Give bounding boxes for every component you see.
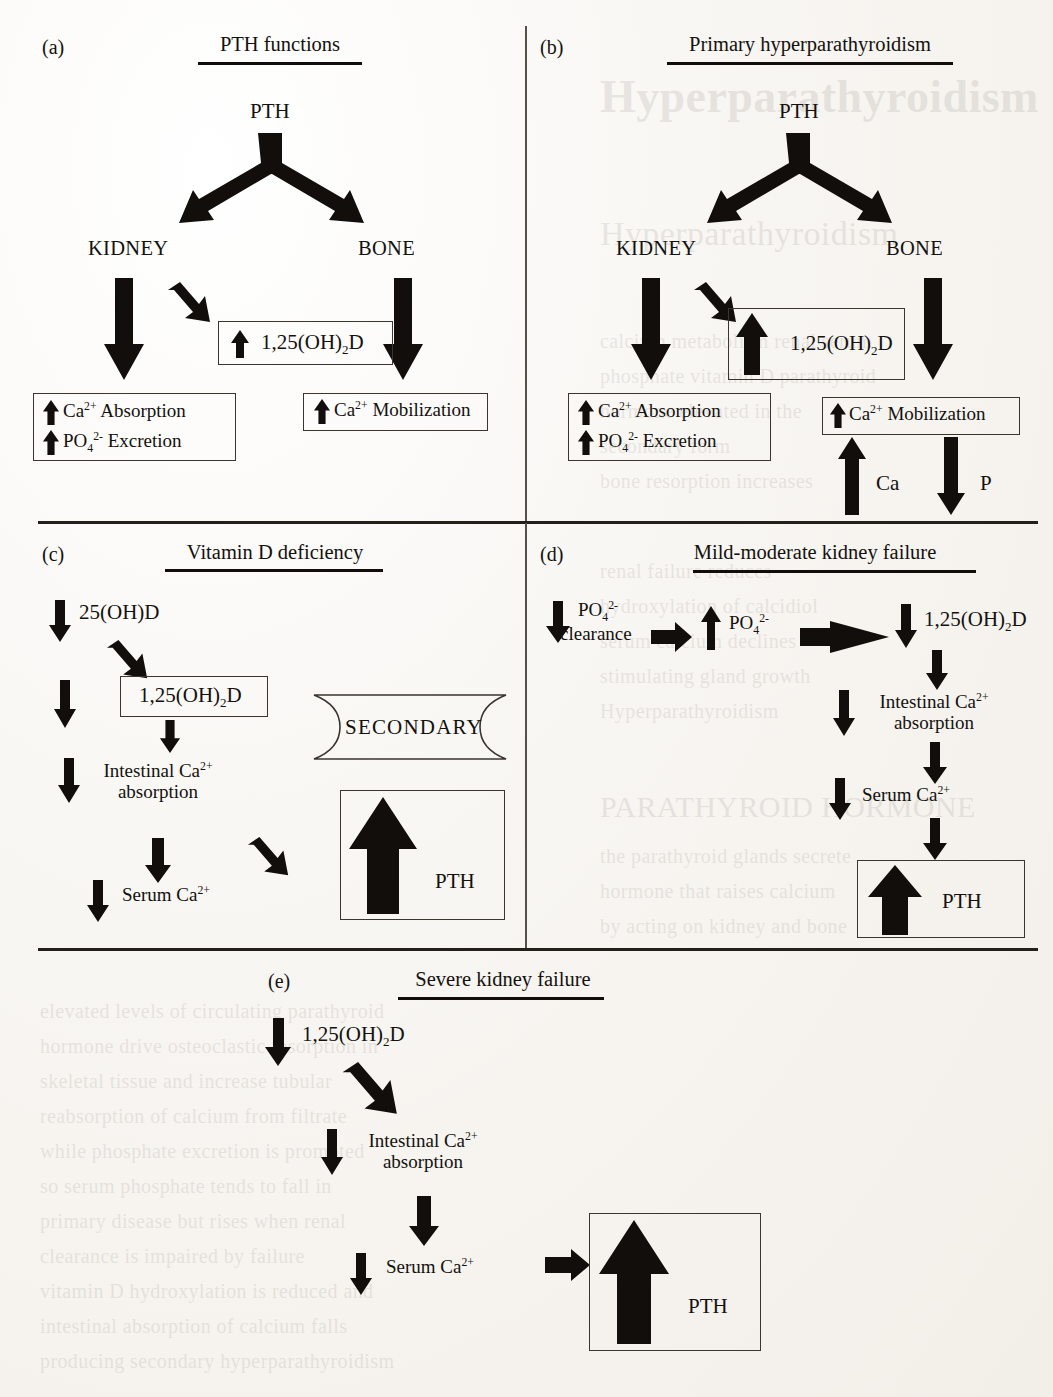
panel-d-tag: (d) [540, 543, 563, 565]
panel-c-step3-line2: absorption [118, 781, 198, 802]
panel-a-title: PTH functions [190, 33, 370, 56]
panel-e-pth-up-arrow [598, 1220, 670, 1344]
panel-a-kidney-down-arrow [103, 278, 145, 380]
panel-d-step1-line2: clearance [560, 622, 632, 646]
panel-b-node-kidney: KIDNEY [616, 237, 696, 260]
panel-d-step1-label: PO42- clearance [578, 598, 632, 646]
panel-b-p-release-down-arrow [936, 437, 966, 515]
panel-b-ca-release-label: Ca [876, 472, 899, 496]
panel-c-step3-label: Intestinal Ca2+ absorption [88, 760, 228, 803]
panel-c-step3-line1: Intestinal Ca2+ [103, 760, 212, 781]
panel-c-step3-down-arrow [57, 758, 81, 803]
panel-b-ca-absorption-label: Ca2+ Absorption [598, 400, 721, 421]
panel-a-ca-absorption-label: Ca2+ Absorption [63, 400, 186, 421]
panel-b-p-release-label: P [980, 472, 992, 496]
panel-c-vitd-to-intestinal-arrow [158, 720, 182, 753]
panel-c-step3-to-step4-arrow [144, 838, 172, 883]
panel-a-ca-mobilization-up-arrow [312, 399, 332, 424]
panel-d-step2-label: PO42- [729, 612, 769, 633]
panel-c-step4-to-pth-arrow [246, 837, 292, 883]
panel-c-step4-down-arrow [86, 880, 110, 922]
panel-e-step3-label: Serum Ca2+ [386, 1256, 474, 1277]
panel-b-title: Primary hyperparathyroidism [660, 33, 960, 56]
panel-d-title: Mild-moderate kidney failure [660, 541, 970, 564]
panel-e-step2-line1: Intestinal Ca2+ [368, 1130, 477, 1151]
panel-c-step1-down-arrow [48, 600, 72, 642]
panel-a-kidney-to-vitd-arrow [166, 282, 214, 330]
panel-a-ca-absorption-up-arrow [41, 400, 61, 425]
panel-b-bone-down-arrow [912, 278, 954, 380]
panel-d-step3-to-step4-arrow [925, 650, 949, 690]
panel-c-title: Vitamin D deficiency [160, 541, 390, 564]
panel-a-title-rule [198, 62, 362, 65]
panel-b-ca-mobilization-up-arrow [828, 403, 848, 428]
panel-e-step2-down-arrow [320, 1129, 344, 1175]
panel-b-vitd-up-arrow [735, 313, 769, 375]
panel-c-step1-label: 25(OH)D [79, 601, 159, 625]
panel-a-ca-mobilization-label: Ca2+ Mobilization [334, 399, 471, 420]
panel-c-vitd-label: 1,25(OH)2D [139, 684, 242, 708]
panel-b-po4-excretion-label: PO42- Excretion [598, 430, 717, 451]
divider-horizontal-upper [38, 521, 1038, 524]
panel-d-step4-label: Intestinal Ca2+ absorption [864, 691, 1004, 734]
panel-d-step5-label: Serum Ca2+ [862, 784, 950, 805]
panel-a-vitd-label: 1,25(OH)2D [261, 331, 364, 355]
panel-e-title: Severe kidney failure [378, 968, 628, 991]
panel-d-step5-down-arrow [828, 778, 852, 820]
panel-d-pth-up-arrow [867, 865, 923, 935]
panel-d-step4-line1: Intestinal Ca2+ [879, 691, 988, 712]
panel-a-po4-excretion-label: PO42- Excretion [63, 430, 182, 451]
panel-e-step2-label: Intestinal Ca2+ absorption [352, 1130, 494, 1173]
panel-c-pth-label: PTH [435, 870, 475, 894]
panel-c-title-rule [165, 569, 383, 572]
panel-a-node-bone: BONE [358, 237, 415, 260]
panel-b-ca-mobilization-label: Ca2+ Mobilization [849, 403, 986, 424]
panel-e-step1-down-arrow [264, 1018, 292, 1066]
panel-e-step2-line2: absorption [383, 1151, 463, 1172]
divider-vertical-bottom [525, 523, 527, 948]
panel-a-po4-excretion-up-arrow [41, 430, 61, 455]
panel-a-node-pth: PTH [250, 100, 290, 124]
divider-horizontal-lower [38, 948, 1038, 951]
panel-e-step1-to-step2-arrow [340, 1062, 402, 1124]
panel-d-step4-line2: absorption [894, 712, 974, 733]
panel-e-step1-label: 1,25(OH)2D [302, 1023, 405, 1047]
panel-b-node-pth: PTH [779, 100, 819, 124]
panel-c-secondary-label: SECONDARY [345, 716, 483, 740]
panel-e-step3-down-arrow [349, 1253, 373, 1295]
panel-d-step1-line1: PO42- [578, 599, 618, 620]
panel-b-ca-release-up-arrow [837, 437, 867, 515]
panel-e-step3-to-pth-arrow [545, 1248, 591, 1282]
panel-c-step4-label: Serum Ca2+ [122, 884, 210, 905]
panel-b-ca-absorption-up-arrow [576, 400, 596, 425]
panel-e-step2-to-step3-arrow [408, 1196, 440, 1246]
panel-c-pth-up-arrow [348, 797, 418, 914]
panel-b-vitd-label: 1,25(OH)2D [790, 332, 893, 356]
panel-e-title-rule [398, 997, 604, 1000]
panel-a-node-kidney: KIDNEY [88, 237, 168, 260]
panel-b-tag: (b) [540, 36, 563, 58]
panel-d-step4-to-step5-arrow [922, 742, 948, 784]
panel-b-po4-excretion-up-arrow [576, 430, 596, 455]
panel-c-tag: (c) [42, 543, 64, 565]
panel-c-step2-down-arrow [53, 680, 77, 728]
panel-e-pth-label: PTH [688, 1295, 728, 1319]
panel-b-fork-arrow [698, 133, 898, 223]
panel-e-tag: (e) [268, 970, 290, 992]
panel-b-kidney-down-arrow [630, 278, 672, 380]
panel-d-step4-down-arrow [832, 690, 856, 736]
panel-d-step3-label: 1,25(OH)2D [924, 608, 1027, 632]
panel-d-step5-to-pth-arrow [922, 818, 948, 860]
panel-b-title-rule [667, 62, 953, 65]
panel-d-step2-to-step3-arrow [800, 619, 890, 655]
panel-a-fork-arrow [170, 133, 370, 223]
panel-d-step1-to-step2-arrow [651, 621, 693, 653]
panel-b-node-bone: BONE [886, 237, 943, 260]
divider-vertical-top [525, 26, 527, 523]
panel-a-vitd-up-arrow [230, 330, 250, 358]
panel-d-step2-up-arrow [700, 606, 722, 650]
panel-a-tag: (a) [42, 36, 64, 58]
panel-d-pth-label: PTH [942, 890, 982, 914]
panel-d-step3-down-arrow [894, 604, 918, 648]
panel-d-title-rule [693, 570, 976, 573]
